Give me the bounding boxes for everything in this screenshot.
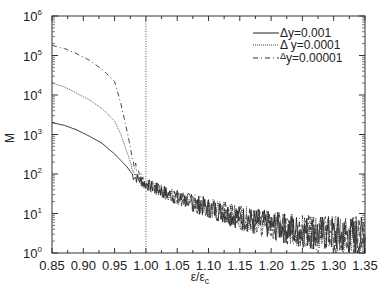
y-tick-label: 102 [23,166,42,182]
legend-label: y=0.0001 [287,38,340,52]
x-tick-label: 0.85 [39,258,64,273]
series-dotted-line [52,83,365,253]
x-tick-label: 1.25 [290,258,315,273]
chart: 0.850.900.951.001.051.101.151.201.251.30… [0,0,384,298]
x-tick-label: 0.90 [71,258,96,273]
svg-text:Δy=0.00001: Δy=0.00001 [280,51,343,65]
x-tick-label: 1.35 [352,258,377,273]
y-axis-label: M [3,133,17,143]
x-axis-label-main: ε/ε [191,270,206,284]
x-tick-label: 0.95 [102,258,127,273]
legend-label: y=0.00001 [286,51,343,65]
svg-text:Δ y=0.0001: Δ y=0.0001 [280,38,341,52]
x-tick-label: 1.05 [165,258,190,273]
y-tick-label: 101 [23,206,42,222]
x-axis-label-subscript: c [205,276,210,286]
x-tick-label: 1.00 [133,258,158,273]
y-axis-tick-labels: 100101102103104105106 [23,8,42,261]
series-dashdot-line [52,45,365,253]
x-tick-label: 1.30 [321,258,346,273]
y-tick-label: 103 [23,127,42,143]
data-series [52,45,365,253]
y-tick-label: 105 [23,48,42,64]
x-tick-label: 1.20 [258,258,283,273]
legend-item-dy-0.00001: Δy=0.00001 [253,51,343,65]
legend: Δy=0.001 Δ y=0.0001 Δy=0.00001 [253,26,343,65]
y-tick-label: 104 [23,87,42,103]
legend-item-dy-0.0001: Δ y=0.0001 [253,38,341,52]
x-tick-label: 1.15 [227,258,252,273]
y-tick-label: 106 [23,8,42,24]
x-axis-tick-labels: 0.850.900.951.001.051.101.151.201.251.30… [39,258,377,273]
